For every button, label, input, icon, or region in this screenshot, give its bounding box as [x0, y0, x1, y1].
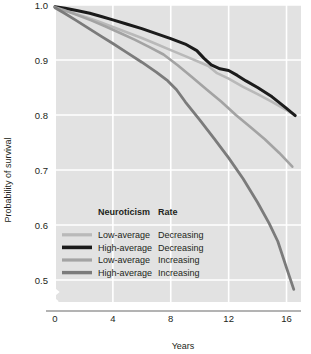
legend-rate-label: Decreasing [158, 230, 204, 240]
x-tick-label: 4 [110, 313, 115, 324]
x-tick-label: 12 [223, 313, 234, 324]
x-tick-label: 16 [281, 313, 292, 324]
x-tick-label: 8 [168, 313, 173, 324]
x-axis-title: Years [172, 341, 195, 351]
survival-chart: 0.50.60.70.80.91.0 0481216 NeuroticismRa… [0, 0, 311, 354]
legend-rate-label: Decreasing [158, 243, 204, 253]
legend-header-neuroticism: Neuroticism [98, 207, 150, 217]
y-tick-label: 0.5 [35, 275, 48, 286]
survival-chart-figure: 0.50.60.70.80.91.0 0481216 NeuroticismRa… [0, 0, 311, 354]
y-tick-label: 0.8 [35, 110, 48, 121]
legend-neuroticism-label: Low-average [98, 230, 150, 240]
y-tick-label: 0.7 [35, 165, 48, 176]
legend-neuroticism-label: High-average [98, 243, 152, 253]
legend-neuroticism-label: High-average [98, 268, 152, 278]
y-tick-label: 0.6 [35, 220, 48, 231]
legend-rate-label: Increasing [158, 268, 200, 278]
y-axis-title: Probability of survival [3, 137, 13, 222]
legend-neuroticism-label: Low-average [98, 255, 150, 265]
legend-rate-label: Increasing [158, 255, 200, 265]
y-tick-label: 1.0 [35, 0, 48, 11]
x-tick-label: 0 [52, 313, 57, 324]
y-tick-label: 0.9 [35, 55, 48, 66]
legend-header-rate: Rate [158, 207, 178, 217]
